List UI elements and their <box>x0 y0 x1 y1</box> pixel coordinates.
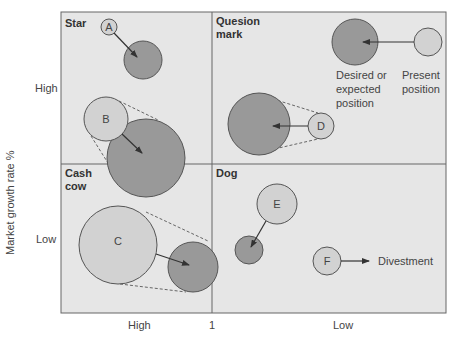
quadrant-label-cash-cow-line1: Cash <box>65 167 92 179</box>
quadrant-label-star: Star <box>65 17 87 29</box>
y-tick-high: High <box>35 82 58 94</box>
x-tick-low: Low <box>333 319 353 331</box>
business-a-label: A <box>105 21 113 33</box>
quadrant-label-question-mark-line2: mark <box>216 28 243 40</box>
legend-desired-line1: Desired or <box>336 69 387 81</box>
business-c-label: C <box>114 235 122 247</box>
y-axis-label: Market growth rate % <box>4 150 16 255</box>
business-b-label: B <box>102 113 109 125</box>
x-tick-mid: 1 <box>209 319 215 331</box>
business-f-label: F <box>324 255 331 267</box>
legend-present-line2: position <box>402 83 440 95</box>
quadrant-label-dog: Dog <box>216 167 237 179</box>
business-e-desired-circle <box>235 236 263 264</box>
quadrant-label-question-mark-line1: Quesion <box>216 15 260 27</box>
business-c-desired-circle <box>168 242 218 292</box>
business-a-desired-circle <box>124 41 162 79</box>
business-d-label: D <box>317 120 325 132</box>
legend-desired-line3: position <box>336 97 374 109</box>
quadrant-label-cash-cow-line2: cow <box>65 180 87 192</box>
y-tick-low: Low <box>36 233 56 245</box>
divestment-label: Divestment <box>378 255 433 267</box>
bcg-growth-share-matrix: Star Quesion mark Cash cow Dog Market gr… <box>0 0 459 343</box>
legend-desired-line2: expected <box>336 83 381 95</box>
business-d-desired-circle <box>228 93 290 155</box>
x-tick-high: High <box>128 319 151 331</box>
business-e-label: E <box>273 198 280 210</box>
legend-present-circle <box>414 28 442 56</box>
legend-present-line1: Present <box>402 69 440 81</box>
